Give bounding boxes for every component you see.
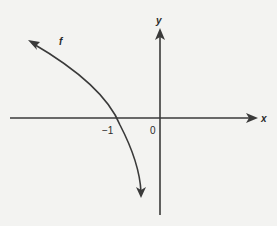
y-axis	[155, 28, 165, 215]
tick-label-neg1: −1	[102, 125, 114, 136]
x-axis	[10, 113, 258, 123]
x-axis-label: x	[260, 113, 267, 124]
function-label: f	[59, 36, 64, 47]
curve-start-arrow-icon	[28, 40, 40, 50]
function-graph: x y −1 0 f	[0, 0, 277, 226]
y-axis-label: y	[155, 15, 162, 26]
tick-label-zero: 0	[150, 125, 156, 136]
